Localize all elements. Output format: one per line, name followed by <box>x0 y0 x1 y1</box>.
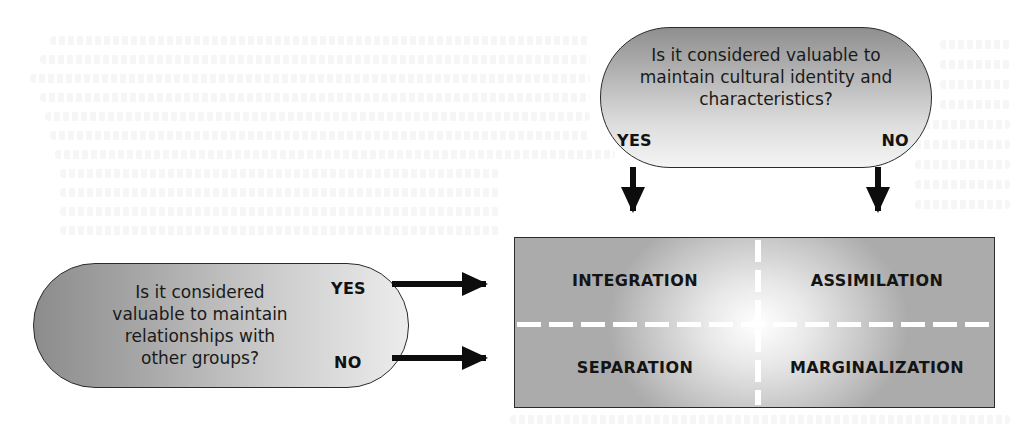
cultural-identity-question-text: Is it considered valuable to maintain cu… <box>601 44 931 110</box>
top-no-label: NO <box>881 131 909 150</box>
top-yes-label: YES <box>617 131 652 150</box>
question-line: characteristics? <box>601 88 931 110</box>
right-arrow-icon <box>392 355 486 361</box>
question-line: relationships with <box>84 325 316 347</box>
quadrant-assimilation: ASSIMILATION <box>757 238 995 322</box>
outcome-label: ASSIMILATION <box>811 271 944 290</box>
question-line: valuable to maintain <box>84 303 316 325</box>
left-no-label: NO <box>334 353 362 372</box>
question-line: other groups? <box>84 347 316 369</box>
relationships-question-text: Is it considered valuable to maintain re… <box>84 281 316 369</box>
right-arrow-icon <box>392 281 486 287</box>
question-line: maintain cultural identity and <box>601 66 931 88</box>
cultural-identity-question-node: Is it considered valuable to maintain cu… <box>600 27 932 168</box>
down-arrow-icon <box>875 167 881 211</box>
question-line: Is it considered <box>84 281 316 303</box>
quadrant-integration: INTEGRATION <box>515 238 755 322</box>
quadrant-separation: SEPARATION <box>515 325 755 408</box>
left-yes-label: YES <box>331 279 366 298</box>
relationships-question-node: Is it considered valuable to maintain re… <box>33 263 409 388</box>
question-line: Is it considered valuable to <box>601 44 931 66</box>
outcome-label: SEPARATION <box>577 358 693 377</box>
outcome-label: INTEGRATION <box>572 271 698 290</box>
down-arrow-icon <box>630 167 636 211</box>
outcome-matrix: INTEGRATION ASSIMILATION SEPARATION MARG… <box>514 237 995 408</box>
quadrant-marginalization: MARGINALIZATION <box>757 325 995 408</box>
outcome-label: MARGINALIZATION <box>790 358 964 377</box>
acculturation-diagram: Is it considered valuable to maintain cu… <box>0 0 1019 430</box>
